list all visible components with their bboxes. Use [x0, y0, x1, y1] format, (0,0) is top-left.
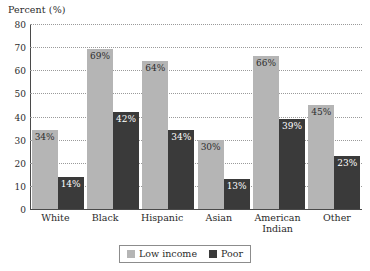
y-axis-tick-label: 20 — [15, 159, 26, 169]
x-axis-category-label: Hispanic — [141, 212, 183, 234]
legend-swatch-icon — [209, 250, 217, 258]
y-axis-tick-label: 60 — [15, 66, 26, 76]
bar-value-label: 30% — [198, 143, 224, 152]
x-axis-category-label: Other — [323, 212, 351, 234]
legend-label: Low income — [139, 248, 197, 259]
bar-value-label: 34% — [32, 133, 58, 142]
x-axis-labels: WhiteBlackHispanicAsianAmerican IndianOt… — [30, 212, 362, 234]
bar-group: 64%34% — [142, 24, 194, 209]
bar-low-income[interactable]: 64% — [142, 61, 168, 209]
bar-value-label: 34% — [168, 133, 194, 142]
chart-legend: Low incomePoor — [119, 245, 251, 263]
x-axis-category-label: Black — [92, 212, 119, 234]
x-axis-category-label: American Indian — [254, 212, 300, 234]
bar-low-income[interactable]: 34% — [32, 130, 58, 209]
y-axis-tick-label: 10 — [15, 182, 26, 192]
bar-poor[interactable]: 42% — [113, 112, 139, 209]
bar-value-label: 13% — [224, 182, 250, 191]
bar-group: 66%39% — [253, 24, 305, 209]
legend-swatch-icon — [127, 250, 135, 258]
bar-value-label: 45% — [308, 108, 334, 117]
y-axis-tick-label: 80 — [15, 20, 26, 30]
bar-chart: Percent (%) 01020304050607080 34%14%69%4… — [0, 0, 370, 271]
x-axis-category-label: Asian — [206, 212, 233, 234]
bar-value-label: 42% — [113, 115, 139, 124]
bar-poor[interactable]: 13% — [224, 179, 250, 209]
y-axis-tick-label: 30 — [15, 136, 26, 146]
x-axis-baseline: 0 — [30, 209, 362, 210]
legend-label: Poor — [221, 248, 243, 259]
bar-poor[interactable]: 34% — [168, 130, 194, 209]
legend-item[interactable]: Poor — [209, 248, 243, 259]
bar-value-label: 14% — [58, 180, 84, 189]
bar-low-income[interactable]: 45% — [308, 105, 334, 209]
y-axis-title: Percent (%) — [8, 4, 66, 15]
bar-poor[interactable]: 14% — [58, 177, 84, 209]
bar-value-label: 39% — [279, 122, 305, 131]
bar-value-label: 69% — [87, 52, 113, 61]
bars-layer: 34%14%69%42%64%34%30%13%66%39%45%23% — [30, 24, 362, 209]
y-axis-tick-label: 40 — [15, 113, 26, 123]
bar-value-label: 23% — [334, 159, 360, 168]
bar-poor[interactable]: 23% — [334, 156, 360, 209]
x-axis-category-label: White — [41, 212, 69, 234]
y-axis-tick-label: 0 — [20, 205, 26, 215]
bar-group: 45%23% — [308, 24, 360, 209]
y-axis-tick-label: 50 — [15, 89, 26, 99]
bar-value-label: 66% — [253, 59, 279, 68]
bar-low-income[interactable]: 69% — [87, 49, 113, 209]
bar-group: 30%13% — [198, 24, 250, 209]
bar-group: 34%14% — [32, 24, 84, 209]
legend-item[interactable]: Low income — [127, 248, 197, 259]
bar-low-income[interactable]: 66% — [253, 56, 279, 209]
bar-group: 69%42% — [87, 24, 139, 209]
y-axis-tick-label: 70 — [15, 43, 26, 53]
bar-value-label: 64% — [142, 64, 168, 73]
plot-area: 01020304050607080 34%14%69%42%64%34%30%1… — [30, 24, 362, 209]
bar-low-income[interactable]: 30% — [198, 140, 224, 209]
bar-poor[interactable]: 39% — [279, 119, 305, 209]
